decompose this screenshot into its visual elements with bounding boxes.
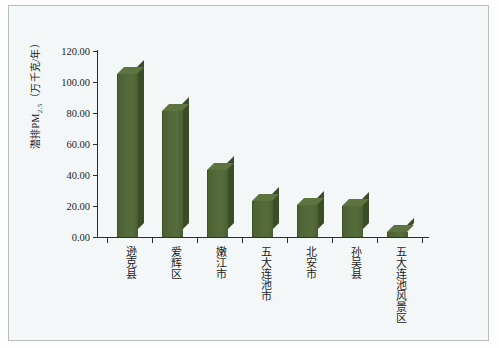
y-tick-mark-120 [93,51,98,52]
x-tick-mark-0 [107,238,108,243]
y-tick-label-100: 100.00 [36,78,90,88]
y-tick-label-60: 60.00 [36,140,90,150]
x-tick-mark-1 [152,238,153,243]
y-tick-mark-20 [93,206,98,207]
bar-face-5 [342,206,363,237]
x-category-label-5: 孙吴县 [349,246,361,279]
bar-face-6 [387,232,408,237]
bar-face-4 [297,205,318,237]
x-tick-mark-4 [287,238,288,243]
y-tick-mark-100 [93,82,98,83]
y-tick-mark-60 [93,144,98,145]
y-tick-label-0: 0.00 [36,233,90,243]
bar-side-0 [137,60,144,230]
y-axis-tick-labels: 120.00 100.00 80.00 60.00 40.00 20.00 0.… [31,0,90,348]
bar-6 [387,225,407,237]
bar-3 [252,194,272,237]
x-category-label-1: 爱辉区 [169,246,181,279]
y-tick-label-80: 80.00 [36,109,90,119]
y-tick-label-20: 20.00 [36,202,90,212]
bar-face-0 [117,74,138,237]
y-tick-mark-0 [93,237,98,238]
y-tick-label-120: 120.00 [36,47,90,57]
bar-2 [207,163,227,237]
x-tick-mark-5 [332,238,333,243]
bar-side-1 [182,97,189,230]
bar-0 [117,67,137,237]
x-category-label-0: 逊克县 [124,246,136,279]
figure-container: 潜排PM2.5（万千克/年） 120.00 100.00 80.00 60.00… [0,0,499,348]
y-tick-label-40: 40.00 [36,171,90,181]
x-tick-mark-6 [377,238,378,243]
x-tick-mark-3 [242,238,243,243]
bar-5 [342,199,362,237]
bar-face-3 [252,201,273,237]
bar-1 [162,104,182,237]
x-category-label-4: 北安市 [304,246,316,279]
y-tick-mark-80 [93,113,98,114]
x-tick-mark-2 [197,238,198,243]
x-category-label-2: 嫩江市 [214,246,226,279]
y-tick-mark-40 [93,175,98,176]
x-tick-mark-7 [422,238,423,243]
bar-face-2 [207,170,228,237]
x-category-label-3: 五大连池市 [259,246,271,301]
x-category-label-6: 五大连池风景区 [394,246,406,323]
bar-4 [297,198,317,237]
bar-face-1 [162,111,183,237]
x-axis-line [97,237,429,238]
